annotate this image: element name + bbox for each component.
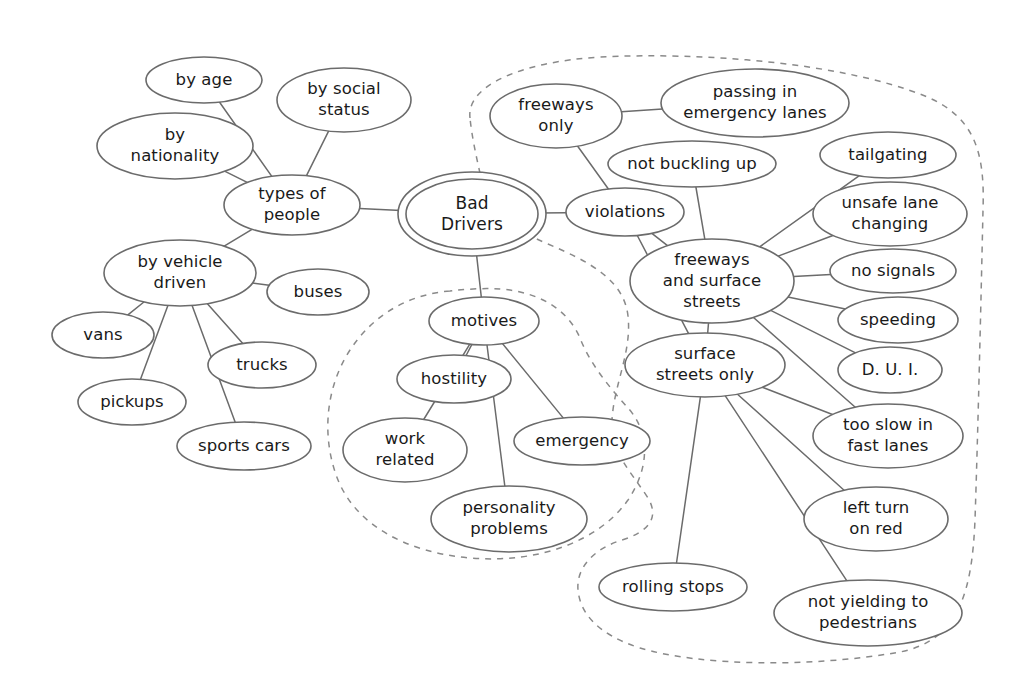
node-label-trucks: trucks: [236, 355, 288, 374]
node-label-work-related: related: [375, 450, 434, 469]
node-label-passing-emergency-lanes: passing in: [713, 82, 798, 101]
node-sports-cars[interactable]: sports cars: [177, 422, 311, 470]
node-tailgating[interactable]: tailgating: [820, 132, 956, 178]
edge-violations-to-freeways-only: [578, 146, 609, 189]
node-label-surface-streets-only: streets only: [656, 365, 754, 384]
edge-by-nationality-to-types-of-people: [225, 171, 247, 182]
node-label-not-buckling-up: not buckling up: [627, 154, 757, 173]
node-label-by-vehicle-driven: driven: [154, 273, 207, 292]
edge-buses-to-by-vehicle-driven: [252, 283, 269, 285]
node-dui[interactable]: D. U. I.: [838, 347, 942, 393]
node-no-signals[interactable]: no signals: [830, 249, 956, 293]
node-label-motives: motives: [451, 311, 517, 330]
node-personality-problems[interactable]: personalityproblems: [431, 486, 587, 552]
node-label-no-signals: no signals: [851, 261, 935, 280]
node-label-buses: buses: [294, 282, 343, 301]
node-emergency[interactable]: emergency: [514, 417, 650, 465]
node-passing-emergency-lanes[interactable]: passing inemergency lanes: [661, 69, 849, 137]
edge-freeways-and-surface-to-unsafe-lane-changing: [778, 236, 833, 257]
edge-freeways-and-surface-to-speeding: [788, 297, 846, 309]
edge-freeways-only-to-passing-emergency-lanes: [621, 109, 662, 112]
node-label-left-turn-on-red: on red: [849, 519, 902, 538]
node-vans[interactable]: vans: [52, 312, 154, 358]
node-label-freeways-only: freeways: [518, 95, 593, 114]
node-label-not-yielding-pedestrians: not yielding to: [808, 592, 929, 611]
node-by-vehicle-driven[interactable]: by vehicledriven: [104, 240, 256, 306]
node-label-rolling-stops: rolling stops: [622, 577, 724, 596]
node-label-unsafe-lane-changing: unsafe lane: [841, 193, 938, 212]
node-label-left-turn-on-red: left turn: [843, 498, 910, 517]
node-label-dui: D. U. I.: [862, 360, 919, 379]
node-label-bad-drivers: Drivers: [441, 214, 503, 234]
node-label-passing-emergency-lanes: emergency lanes: [683, 103, 826, 122]
edge-not-buckling-up-to-freeways-and-surface: [696, 187, 705, 239]
node-not-buckling-up[interactable]: not buckling up: [608, 141, 776, 187]
node-speeding[interactable]: speeding: [838, 297, 958, 343]
node-label-speeding: speeding: [860, 310, 936, 329]
node-label-types-of-people: types of: [258, 184, 326, 203]
node-label-freeways-only: only: [538, 116, 573, 135]
node-motives[interactable]: motives: [429, 297, 539, 345]
node-label-emergency: emergency: [535, 431, 629, 450]
node-unsafe-lane-changing[interactable]: unsafe lanechanging: [813, 182, 967, 246]
node-label-work-related: work: [385, 429, 426, 448]
node-label-by-vehicle-driven: by vehicle: [137, 252, 222, 271]
node-by-social-status[interactable]: by socialstatus: [277, 68, 411, 132]
node-work-related[interactable]: workrelated: [343, 418, 467, 482]
node-label-by-nationality: by: [165, 125, 186, 144]
edge-surface-streets-only-to-too-slow-fast-lanes: [762, 387, 832, 414]
edge-trucks-to-by-vehicle-driven: [207, 304, 242, 344]
node-left-turn-on-red[interactable]: left turnon red: [804, 487, 948, 551]
edge-freeways-and-surface-to-surface-streets-only: [708, 323, 709, 333]
node-freeways-and-surface[interactable]: freewaysand surfacestreets: [630, 239, 794, 323]
edge-vans-to-by-vehicle-driven: [128, 302, 144, 315]
node-freeways-only[interactable]: freewaysonly: [490, 84, 622, 148]
edge-by-vehicle-driven-to-types-of-people: [224, 229, 252, 246]
node-label-bad-drivers: Bad: [455, 193, 488, 213]
node-label-surface-streets-only: surface: [674, 344, 736, 363]
node-label-vans: vans: [83, 325, 122, 344]
node-trucks[interactable]: trucks: [208, 342, 316, 388]
node-pickups[interactable]: pickups: [78, 379, 186, 425]
node-types-of-people[interactable]: types ofpeople: [224, 175, 360, 235]
node-label-sports-cars: sports cars: [198, 436, 290, 455]
node-label-by-age: by age: [176, 70, 233, 89]
node-label-not-yielding-pedestrians: pedestrians: [819, 613, 917, 632]
node-label-too-slow-fast-lanes: fast lanes: [847, 436, 928, 455]
node-label-violations: violations: [585, 202, 665, 221]
edge-by-social-status-to-types-of-people: [307, 131, 329, 176]
node-hostility[interactable]: hostility: [397, 355, 511, 403]
node-surface-streets-only[interactable]: surfacestreets only: [625, 333, 785, 397]
node-label-personality-problems: problems: [470, 519, 548, 538]
node-label-by-social-status: by social: [307, 79, 380, 98]
node-label-too-slow-fast-lanes: too slow in: [843, 415, 933, 434]
node-label-freeways-and-surface: and surface: [663, 271, 761, 290]
edge-violations-to-freeways-and-surface: [652, 233, 668, 245]
node-label-types-of-people: people: [264, 205, 321, 224]
node-label-personality-problems: personality: [462, 498, 555, 517]
edge-surface-streets-only-to-rolling-stops: [677, 397, 701, 563]
node-label-hostility: hostility: [421, 369, 488, 388]
node-label-freeways-and-surface: streets: [683, 292, 741, 311]
node-by-nationality[interactable]: bynationality: [97, 113, 253, 179]
node-violations[interactable]: violations: [566, 188, 684, 236]
mindmap-diagram: BadDriverstypes ofpeopleby ageby socials…: [0, 0, 1033, 689]
edge-freeways-and-surface-to-no-signals: [794, 274, 831, 276]
node-label-pickups: pickups: [100, 392, 163, 411]
node-not-yielding-pedestrians[interactable]: not yielding topedestrians: [774, 580, 962, 646]
node-label-by-social-status: status: [318, 100, 369, 119]
node-bad-drivers[interactable]: BadDrivers: [398, 172, 546, 256]
node-by-age[interactable]: by age: [146, 57, 262, 103]
node-label-freeways-and-surface: freeways: [674, 250, 749, 269]
node-label-by-nationality: nationality: [131, 146, 220, 165]
node-rolling-stops[interactable]: rolling stops: [599, 563, 747, 611]
node-label-unsafe-lane-changing: changing: [852, 214, 929, 233]
mindmap-canvas: BadDriverstypes ofpeopleby ageby socials…: [0, 0, 1033, 689]
node-buses[interactable]: buses: [267, 269, 369, 315]
node-label-tailgating: tailgating: [848, 145, 927, 164]
node-too-slow-fast-lanes[interactable]: too slow infast lanes: [813, 404, 963, 468]
